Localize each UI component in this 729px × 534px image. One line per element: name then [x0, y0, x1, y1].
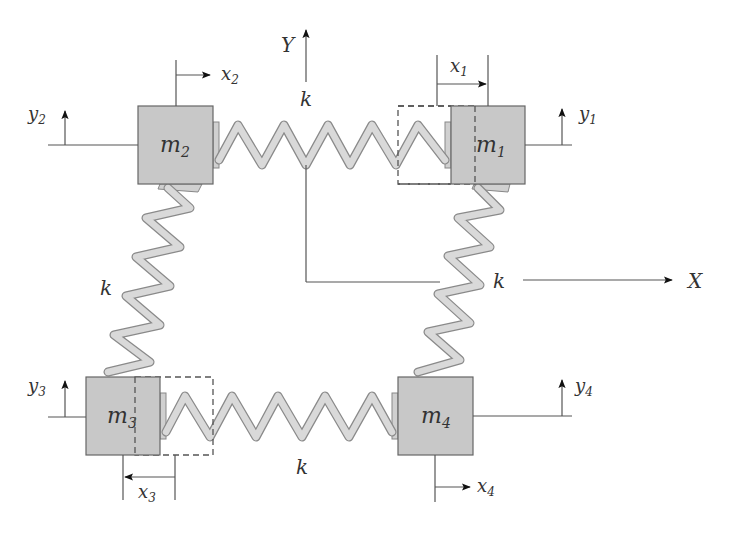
mass-m2: m2 — [138, 106, 213, 184]
x-axis-label: X — [686, 269, 703, 293]
y-axis-label: Y — [281, 33, 296, 57]
spring-left-label: k — [100, 276, 112, 300]
y3-label: y3 — [27, 375, 46, 399]
spring-right-label: k — [493, 269, 505, 293]
mass-m3: m3 — [86, 377, 160, 455]
spring-bottom — [160, 393, 398, 439]
displacement-x2: x2 — [176, 60, 239, 106]
x4-label: x4 — [477, 475, 495, 499]
x1-label: x1 — [450, 55, 468, 79]
displacement-y3: y3 — [27, 375, 86, 417]
displacement-y4: y4 — [473, 375, 593, 416]
x2-label: x2 — [221, 63, 239, 87]
mass-m4: m4 — [398, 377, 473, 455]
y1-label: y1 — [578, 103, 597, 127]
y2-label: y2 — [27, 103, 46, 127]
spring-top-label: k — [300, 87, 312, 111]
spring-bottom-label: k — [296, 455, 308, 479]
displacement-x1: x1 — [437, 55, 488, 106]
mass-m1: m1 — [451, 106, 525, 184]
spring-left — [108, 184, 202, 372]
displacement-y1: y1 — [525, 103, 597, 145]
y4-label: y4 — [574, 375, 593, 399]
spring-mass-diagram: Y X m2 m1 m3 m4 x2 y2 x1 — [0, 0, 729, 534]
spring-top — [213, 122, 451, 168]
displacement-y2: y2 — [27, 103, 138, 145]
x3-label: x3 — [138, 481, 156, 505]
displacement-x3: x3 — [123, 455, 175, 505]
displacement-x4: x4 — [435, 455, 495, 502]
